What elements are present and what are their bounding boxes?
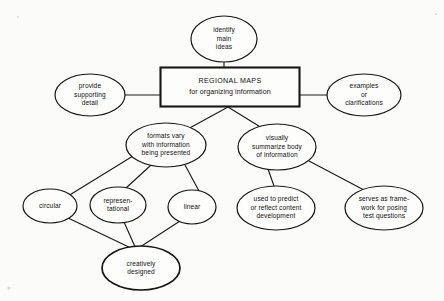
node-provide-supporting-detail[interactable]: providesupportingdetail	[55, 74, 125, 116]
node-label-line: identify	[213, 26, 235, 34]
node-representational[interactable]: represen-tational	[90, 187, 146, 223]
node-label-line: designed	[127, 268, 155, 276]
edge-visually-to-used	[268, 169, 274, 186]
node-label-line: examples	[349, 82, 379, 90]
node-label-line: linear	[184, 203, 201, 210]
edge-formats-to-representational	[126, 166, 150, 188]
node-label-line: serves as frame-	[359, 195, 410, 202]
node-shape-rectangle	[161, 68, 300, 107]
node-label-line: of information	[256, 151, 298, 158]
concept-map-diagram: REGIONAL MAPSfor organizing informationi…	[0, 0, 444, 301]
node-label-line: used to predict	[254, 195, 299, 203]
root-title-line: REGIONAL MAPS	[198, 77, 261, 85]
node-label-line: or reflect content	[251, 204, 302, 211]
node-label-line: circular	[39, 202, 62, 209]
node-label-line: development	[257, 212, 296, 220]
node-label-line: test questions	[363, 212, 406, 220]
node-label-line: work for posing	[360, 204, 407, 212]
concept-map-page: REGIONAL MAPSfor organizing informationi…	[0, 0, 444, 301]
node-label-line: visually	[266, 134, 289, 142]
node-used-to-predict[interactable]: used to predictor reflect contentdevelop…	[237, 186, 315, 230]
edge-visually-to-serves	[309, 161, 364, 190]
node-label-line: clarifications	[345, 99, 383, 106]
node-creatively-designed[interactable]: creativelydesigned	[102, 246, 180, 290]
node-serves-as-framework[interactable]: serves as frame-work for posingtest ques…	[345, 186, 423, 230]
edge-formats-to-linear	[185, 165, 199, 191]
node-label-line: supporting	[74, 91, 106, 99]
node-label-line: or	[361, 91, 368, 98]
edge-linear-to-creatively	[137, 221, 180, 249]
node-label-line: detail	[82, 99, 99, 106]
node-label-line: main	[217, 35, 232, 42]
node-label-line: creatively	[127, 260, 156, 268]
edge-root-to-visually	[228, 107, 262, 128]
node-label-line: tational	[107, 205, 129, 212]
node-label-line: with information	[141, 141, 190, 148]
node-label-line: ideas	[216, 43, 233, 50]
node-label-line: formats vary	[147, 132, 185, 140]
node-formats-vary[interactable]: formats varywith informationbeing presen…	[126, 123, 206, 167]
node-regional-maps[interactable]: REGIONAL MAPSfor organizing information	[161, 68, 300, 107]
node-label-line: represen-	[103, 197, 132, 205]
node-examples-or-clarifications[interactable]: examplesorclarifications	[327, 74, 401, 116]
nodes-layer: REGIONAL MAPSfor organizing informationi…	[23, 16, 423, 290]
node-circular[interactable]: circular	[23, 189, 77, 223]
node-label-line: summarize body	[252, 143, 302, 151]
node-linear[interactable]: linear	[168, 190, 216, 224]
edge-root-to-formats	[186, 107, 228, 130]
node-identify-main-ideas[interactable]: identifymainideas	[191, 16, 257, 62]
node-visually-summarize[interactable]: visuallysummarize bodyof information	[238, 124, 316, 170]
node-label-line: being presented	[142, 149, 191, 157]
root-subtitle-line: for organizing information	[189, 88, 270, 96]
node-label-line: provide	[79, 82, 102, 90]
